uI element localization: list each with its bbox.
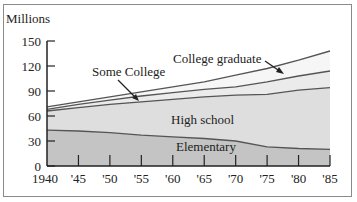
x-tick-label: 1940 — [32, 171, 58, 186]
y-tick-label: 60 — [28, 109, 41, 124]
x-tick-label: '70 — [228, 171, 243, 186]
label-elementary: Elementary — [176, 139, 236, 154]
label-high-school: High school — [171, 112, 235, 127]
y-tick-label: 120 — [22, 59, 42, 74]
x-tick-label: '60 — [165, 171, 180, 186]
x-tick-label: '50 — [102, 171, 117, 186]
y-axis-label: Millions — [6, 11, 50, 26]
label-some-college: Some College — [92, 64, 166, 79]
x-tick-label: '85 — [322, 171, 337, 186]
x-tick-label: '55 — [134, 171, 149, 186]
x-tick-label: '65 — [197, 171, 212, 186]
x-tick-label: '80 — [291, 171, 306, 186]
y-tick-label: 150 — [22, 34, 42, 49]
label-college-graduate: College graduate — [173, 51, 262, 66]
y-tick-label: 90 — [28, 84, 41, 99]
x-tick-label: '75 — [259, 171, 274, 186]
y-tick-label: 30 — [28, 134, 41, 149]
x-tick-label: '45 — [71, 171, 86, 186]
stacked-area-chart: 03060901201501940'45'50'55'60'65'70'75'8… — [0, 0, 357, 202]
